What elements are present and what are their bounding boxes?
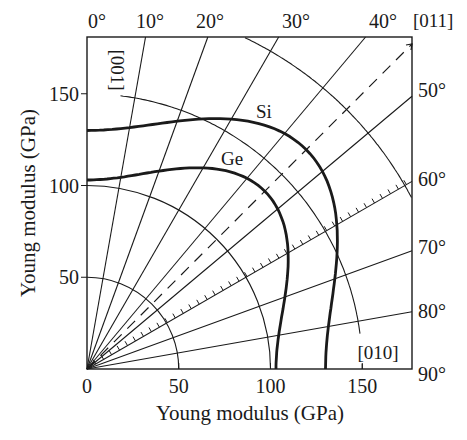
hatch-tick: [308, 235, 311, 239]
hatch-tick: [237, 277, 240, 281]
hatch-tick: [157, 323, 160, 327]
x-tick-label: 0: [82, 375, 92, 397]
hatch-tick: [229, 281, 232, 285]
hatch-tick: [284, 249, 287, 253]
angle-label-right: 60°: [418, 168, 446, 190]
hatch-tick: [292, 245, 295, 249]
hatch-tick: [189, 304, 192, 308]
hatch-tick: [133, 337, 136, 341]
x-tick-label: 150: [347, 375, 377, 397]
hatch-tick: [149, 327, 152, 331]
arc-150: [121, 96, 361, 334]
hatch-tick: [316, 231, 319, 235]
hatch-tick: [372, 199, 375, 203]
hatch-tick: [197, 300, 200, 304]
y-tick-label: 100: [49, 175, 79, 197]
hatch-tick: [125, 341, 128, 345]
hatch-tick: [276, 254, 279, 258]
series-label-ge: Ge: [221, 148, 243, 169]
hatch-tick: [109, 350, 112, 354]
angle-label-right: 50°: [418, 79, 446, 101]
hatch-tick: [253, 268, 256, 272]
x-axis-label: Young modulus (GPa): [156, 401, 344, 425]
angle-label-top: 30°: [282, 10, 310, 32]
y-axis-label: Young modulus (GPa): [16, 109, 40, 297]
hatch-tick: [356, 208, 359, 212]
hatch-tick: [300, 240, 303, 244]
polar-grid: [87, 37, 412, 369]
angle-label-top: 0°: [88, 10, 106, 32]
y-tick-label: 50: [59, 266, 79, 288]
hatch-tick: [348, 212, 351, 216]
young-modulus-polar-chart: Young modulus (GPa) Young modulus (GPa) …: [0, 0, 467, 440]
angle-label-top: 40°: [369, 10, 397, 32]
hatch-tick: [396, 185, 399, 189]
radial-line-20deg: [87, 37, 208, 369]
y-tick-label: 150: [49, 83, 79, 105]
hatch-tick: [181, 309, 184, 313]
hatch-tick: [213, 291, 216, 295]
hatch-tick: [364, 203, 367, 207]
angle-label-right: 70°: [418, 236, 446, 258]
angle-label-right: 90°: [418, 363, 446, 385]
hatch-tick: [173, 314, 176, 318]
direction-label-011: [011]: [413, 10, 453, 31]
hatch-tick: [117, 346, 120, 350]
x-tick-label: 100: [256, 375, 286, 397]
hatch-tick: [268, 258, 271, 262]
hatch-tick: [260, 263, 263, 267]
hatch-tick: [380, 194, 383, 198]
radial-line-50deg: [87, 96, 412, 369]
angle-label-right: 80°: [418, 300, 446, 322]
hatch-tick: [221, 286, 224, 290]
hatch-tick: [141, 332, 144, 336]
hatch-tick: [340, 217, 343, 221]
series-label-si: Si: [256, 101, 272, 122]
hatch-tick: [205, 295, 208, 299]
angle-label-top: 20°: [196, 10, 224, 32]
angle-label-top: 10°: [136, 10, 164, 32]
x-tick-label: 50: [169, 375, 189, 397]
hatch-tick: [388, 189, 391, 193]
direction-label-001: [001]: [107, 49, 128, 90]
hatch-tick: [332, 222, 335, 226]
direction-label-010: [010]: [357, 342, 398, 363]
chart-labels: Young modulus (GPa) Young modulus (GPa) …: [16, 10, 453, 425]
